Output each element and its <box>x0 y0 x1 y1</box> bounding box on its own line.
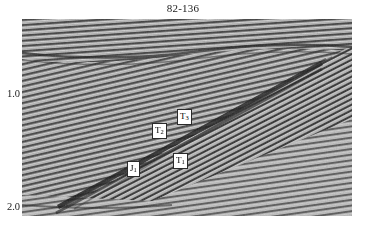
unit-label-t3-subscript: 3 <box>186 114 189 121</box>
unit-label-t1: T1 <box>173 153 188 169</box>
unit-label-t1-subscript: 1 <box>182 158 185 165</box>
seismic-figure: 82-136 1.0 2.0 <box>0 0 366 230</box>
unit-label-t2: T2 <box>152 123 167 139</box>
unit-label-t3: T3 <box>177 109 192 125</box>
time-axis-tick-1: 1.0 <box>0 88 20 99</box>
unit-label-j1: J1 <box>127 161 140 177</box>
figure-title: 82-136 <box>0 2 366 15</box>
unit-label-j1-subscript: 1 <box>134 166 137 173</box>
time-axis-tick-2: 2.0 <box>0 201 20 212</box>
unit-label-t2-subscript: 2 <box>161 128 164 135</box>
